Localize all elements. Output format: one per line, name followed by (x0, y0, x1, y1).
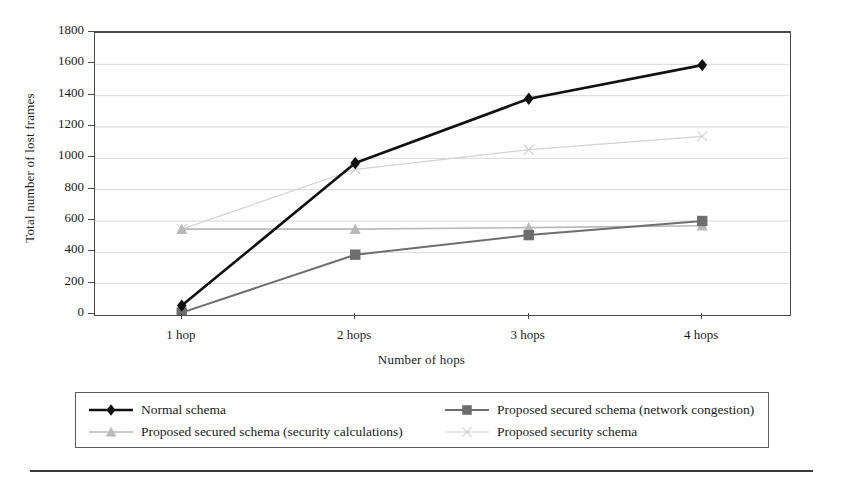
legend-label: Proposed secured schema (security calcul… (141, 424, 403, 440)
data-point-diamond (697, 59, 707, 71)
data-point-square (524, 230, 534, 240)
x-axis-title: Number of hops (0, 352, 843, 368)
series-line (182, 65, 703, 305)
legend-marker-triangle-icon (88, 425, 134, 439)
x-tick-mark (701, 313, 702, 319)
chart-legend: Normal schemaProposed secured schema (se… (75, 392, 769, 448)
figure: Total number of lost frames 180016001400… (0, 0, 843, 486)
x-tick-mark (528, 313, 529, 319)
legend-item[interactable]: Proposed secured schema (security calcul… (88, 421, 403, 443)
data-point-diamond (107, 404, 116, 415)
series-line (182, 136, 703, 229)
y-tick-label: 600 (26, 210, 84, 226)
legend-item[interactable]: Proposed secured schema (network congest… (444, 399, 754, 421)
series-canvas (95, 33, 789, 315)
x-tick-mark (181, 313, 182, 319)
x-tick-label: 3 hops (468, 327, 588, 343)
x-tick-mark (354, 313, 355, 319)
plot-area (94, 31, 791, 316)
legend-marker-square-icon (444, 403, 490, 417)
data-point-square (697, 216, 707, 226)
y-tick-label: 1200 (26, 116, 84, 132)
legend-marker-diamond-icon (88, 403, 134, 417)
legend-label: Proposed security schema (497, 424, 637, 440)
y-tick-label: 1400 (26, 85, 84, 101)
y-tick-label: 200 (26, 273, 84, 289)
data-point-square (350, 249, 360, 259)
legend-column: Normal schemaProposed secured schema (se… (88, 399, 403, 443)
y-tick-label: 0 (26, 304, 84, 320)
x-tick-label: 4 hops (641, 327, 761, 343)
x-tick-label: 2 hops (294, 327, 414, 343)
y-tick-label: 800 (26, 179, 84, 195)
y-tick-label: 1000 (26, 147, 84, 163)
legend-label: Normal schema (141, 402, 226, 418)
data-point-diamond (524, 93, 534, 105)
legend-item[interactable]: Proposed security schema (444, 421, 754, 443)
legend-item[interactable]: Normal schema (88, 399, 403, 421)
y-tick-label: 1800 (26, 22, 84, 38)
legend-column: Proposed secured schema (network congest… (444, 399, 754, 443)
y-tick-label: 400 (26, 241, 84, 257)
legend-marker-cross-icon (444, 425, 490, 439)
data-point-square (462, 405, 472, 415)
legend-label: Proposed secured schema (network congest… (497, 402, 754, 418)
series-line (182, 221, 703, 313)
x-tick-label: 1 hop (121, 327, 241, 343)
y-tick-label: 1600 (26, 53, 84, 69)
page-divider-rule (30, 470, 813, 472)
